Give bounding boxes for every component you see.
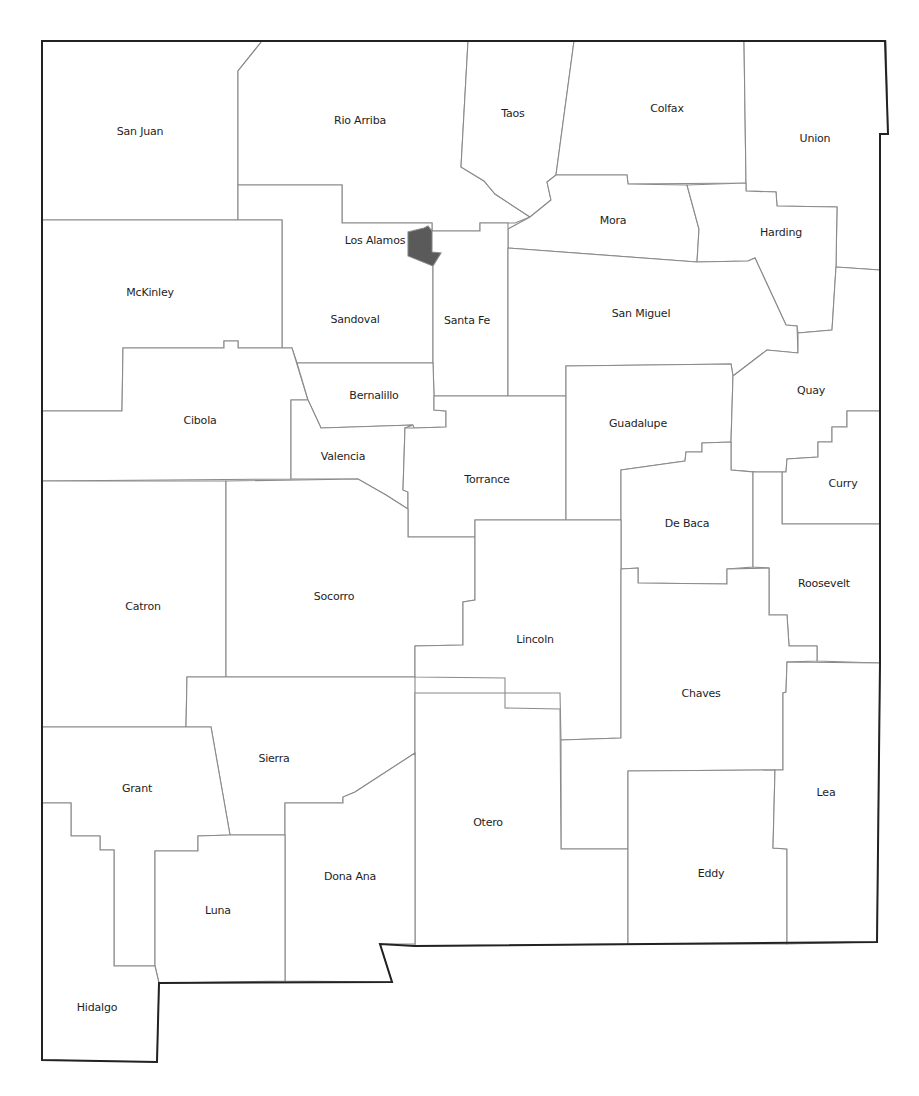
county-label-mckinley: McKinley [126,286,174,299]
county-label-torrance: Torrance [464,473,509,486]
county-label-curry: Curry [828,477,857,490]
county-label-lea: Lea [817,786,836,799]
county-label-roosevelt: Roosevelt [798,577,850,590]
county-label-socorro: Socorro [314,590,354,603]
county-label-otero: Otero [473,816,503,829]
county-label-harding: Harding [760,226,802,239]
county-label-mora: Mora [600,214,627,227]
county-label-san-miguel: San Miguel [612,307,671,320]
county-label-sandoval: Sandoval [330,313,379,326]
county-santa-fe[interactable] [432,223,508,396]
county-label-grant: Grant [122,782,152,795]
county-label-eddy: Eddy [698,867,725,880]
county-label-taos: Taos [501,107,524,120]
county-label-de-baca: De Baca [665,517,709,530]
county-label-sierra: Sierra [258,752,289,765]
county-label-union: Union [800,132,831,145]
county-label-luna: Luna [205,904,231,917]
county-label-hidalgo: Hidalgo [77,1001,117,1014]
county-label-rio-arriba: Rio Arriba [334,114,386,127]
county-label-dona-ana: Dona Ana [324,870,376,883]
county-label-chaves: Chaves [681,687,720,700]
county-label-santa-fe: Santa Fe [444,314,490,327]
county-label-quay: Quay [797,384,825,397]
county-label-valencia: Valencia [321,450,365,463]
county-eddy[interactable] [628,770,787,944]
county-lea[interactable] [773,662,880,944]
county-label-catron: Catron [125,600,161,613]
county-label-colfax: Colfax [650,102,683,115]
county-label-los-alamos: Los Alamos [345,234,405,247]
county-label-bernalillo: Bernalillo [349,389,398,402]
county-label-san-juan: San Juan [117,125,164,138]
county-label-cibola: Cibola [183,414,216,427]
county-label-guadalupe: Guadalupe [609,417,667,430]
new-mexico-county-map [0,0,919,1096]
county-label-lincoln: Lincoln [516,633,554,646]
